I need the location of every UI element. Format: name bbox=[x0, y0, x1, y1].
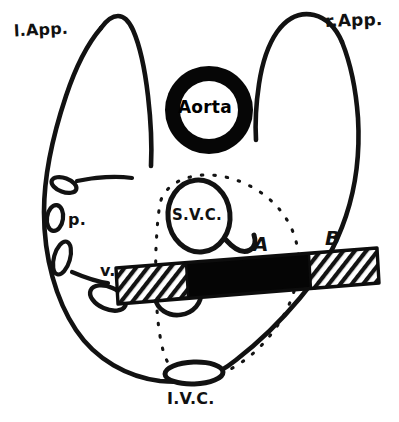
figure-container: l.App. r.App. Aorta S.V.C. A B p. v. I.V… bbox=[0, 0, 399, 422]
label-right-appendage: r.App. bbox=[325, 11, 383, 30]
label-aorta: Aorta bbox=[178, 99, 232, 116]
label-superior-vena-cava: S.V.C. bbox=[172, 208, 222, 223]
label-pulmonary-artery: p. bbox=[68, 212, 86, 228]
right-appendage-horn bbox=[256, 14, 342, 140]
label-left-appendage: l.App. bbox=[14, 21, 69, 40]
ivc-orifice bbox=[165, 361, 224, 385]
label-marker-a: A bbox=[253, 234, 269, 254]
label-marker-b: B bbox=[325, 228, 340, 248]
left-appendage-horn bbox=[101, 16, 151, 166]
label-inferior-vena-cava: I.V.C. bbox=[167, 391, 214, 407]
label-vein: v. bbox=[100, 263, 116, 279]
